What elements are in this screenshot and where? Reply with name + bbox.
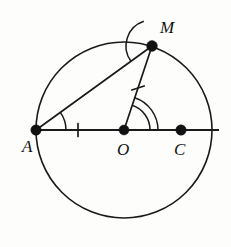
point-m-dot	[147, 41, 158, 52]
circle-geometry-figure: A M O C	[0, 0, 231, 247]
point-o-dot	[119, 125, 129, 135]
point-label-c: C	[174, 140, 186, 159]
point-label-m: M	[159, 18, 175, 37]
chord-a-m	[36, 46, 152, 130]
angle-arc-at-o-outer	[135, 98, 158, 130]
angle-arc-at-o-inner	[132, 105, 150, 130]
point-label-a: A	[21, 137, 33, 156]
point-a-dot	[31, 125, 41, 135]
point-label-o: O	[117, 140, 129, 159]
geometry-diagram: A M O C	[0, 0, 231, 247]
point-c-dot	[176, 125, 186, 135]
angle-arc-at-m	[126, 21, 144, 61]
angle-arc-at-a	[60, 112, 66, 130]
